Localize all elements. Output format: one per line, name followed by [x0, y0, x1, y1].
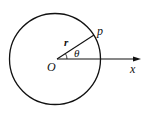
- point-label: p: [96, 24, 103, 38]
- origin-label: O: [47, 60, 56, 74]
- axis-label: x: [129, 62, 136, 76]
- angle-arc: [65, 54, 67, 59]
- polar-diagram: p r θ O x: [0, 0, 151, 113]
- x-axis-arrow-icon: [133, 57, 141, 62]
- angle-label: θ: [74, 47, 80, 59]
- radius-label: r: [64, 36, 69, 48]
